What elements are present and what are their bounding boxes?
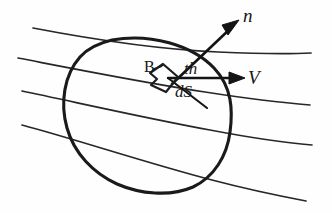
diagram-canvas: n V th dS B <box>0 0 332 213</box>
field-line-4 <box>22 125 306 201</box>
label-surface-element: dS <box>175 83 192 100</box>
physics-figure <box>0 0 332 213</box>
velocity-vector-head <box>229 72 245 84</box>
normal-vector-shaft <box>172 27 232 84</box>
label-normal-vector: n <box>243 6 253 25</box>
label-angle-theta: th <box>184 60 197 77</box>
label-magnetic-field: B <box>144 59 155 75</box>
label-velocity-vector: V <box>248 68 260 87</box>
field-line-1 <box>33 28 311 54</box>
field-lines-group <box>18 28 312 201</box>
